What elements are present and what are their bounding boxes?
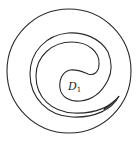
middle-spiral-curve [108, 52, 111, 80]
spiral-diagram [0, 0, 139, 143]
outer-spiral-curve [30, 33, 119, 117]
region-label-subscript: 1 [77, 86, 81, 94]
inner-spiral-curve [36, 42, 119, 113]
region-d1-label: D1 [68, 81, 81, 94]
region-label-main: D [68, 80, 77, 93]
diagram-canvas: D1 [0, 0, 139, 143]
outer-circle [7, 9, 131, 133]
spiral-tip [104, 96, 119, 110]
